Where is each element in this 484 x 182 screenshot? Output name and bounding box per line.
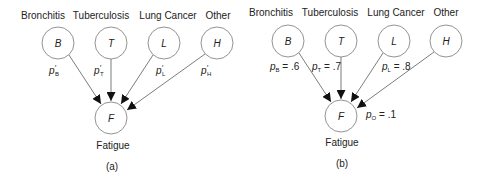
cause-label-tuberculosis: Tuberculosis — [302, 7, 358, 18]
node-l-label: L — [161, 38, 167, 49]
prob-label-b: pB = .6 — [269, 61, 300, 73]
prob-label-l: p′L — [155, 63, 166, 77]
node-t-label: T — [338, 36, 345, 47]
noisy-or-diagram: Bronchitis Tuberculosis Lung Cancer Othe… — [0, 0, 484, 182]
prob-label-o: pO = .1 — [365, 109, 396, 121]
edge-b-f — [69, 55, 101, 104]
panel-caption-b: (b) — [336, 158, 348, 169]
cause-label-other: Other — [433, 7, 459, 18]
node-h-label: H — [442, 36, 450, 47]
cause-label-bronchitis: Bronchitis — [21, 10, 65, 21]
cause-label-bronchitis: Bronchitis — [249, 7, 293, 18]
edge-l-f — [351, 53, 383, 102]
edge-l-f — [121, 55, 153, 104]
node-b-label: B — [285, 36, 292, 47]
effect-label-fatigue: Fatigue — [325, 137, 359, 148]
prob-label-b: p′B — [48, 63, 59, 77]
cause-label-other: Other — [205, 10, 231, 21]
node-l-label: L — [391, 36, 397, 47]
node-f-label: F — [338, 111, 345, 122]
panel-b: Bronchitis Tuberculosis Lung Cancer Othe… — [249, 7, 462, 169]
edge-h-f — [127, 54, 205, 110]
prob-label-t: pT = .7 — [311, 61, 341, 73]
prob-label-t: p′T — [93, 63, 104, 77]
node-t-label: T — [108, 38, 115, 49]
node-h-label: H — [213, 38, 221, 49]
cause-label-lung-cancer: Lung Cancer — [367, 7, 425, 18]
node-b-label: B — [55, 38, 62, 49]
prob-label-l: pL = .8 — [381, 61, 411, 73]
prob-label-h: p′H — [200, 63, 211, 77]
node-f-label: F — [108, 113, 115, 124]
cause-label-tuberculosis: Tuberculosis — [73, 10, 129, 21]
effect-label-fatigue: Fatigue — [96, 140, 130, 151]
panel-caption-a: (a) — [106, 161, 118, 172]
cause-label-lung-cancer: Lung Cancer — [139, 10, 197, 21]
panel-a: Bronchitis Tuberculosis Lung Cancer Othe… — [21, 10, 233, 172]
